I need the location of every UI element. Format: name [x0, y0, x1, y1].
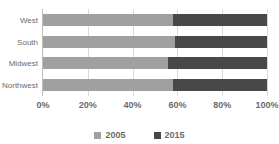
bar-row: West: [43, 14, 267, 26]
x-tick-label: 60%: [168, 99, 186, 111]
bar-row: Midwest: [43, 57, 267, 69]
chart-legend: 20052015: [0, 131, 279, 140]
category-label-south: South: [17, 39, 43, 47]
x-tick-label: 20%: [79, 99, 97, 111]
bar-segment-2015: [175, 36, 267, 48]
bar-segment-2015: [168, 57, 267, 69]
bar-segment-2005: [43, 57, 168, 69]
legend-label-2015: 2015: [165, 131, 185, 140]
chart-title: [0, 0, 279, 2]
bar-segment-2005: [43, 79, 173, 91]
x-tick-label: 80%: [213, 99, 231, 111]
bar-segment-2005: [43, 36, 175, 48]
x-tick-label: 40%: [124, 99, 142, 111]
bar-segment-2015: [173, 14, 267, 26]
bar-row: South: [43, 36, 267, 48]
category-label-west: West: [20, 17, 43, 25]
category-label-northwest: Northwest: [2, 82, 43, 90]
legend-item-2015[interactable]: 2015: [154, 131, 185, 140]
stacked-bar-chart: WestSouthMidwestNorthwest 0%20%40%60%80%…: [0, 0, 279, 144]
legend-item-2005[interactable]: 2005: [94, 131, 125, 140]
legend-swatch-2005: [94, 132, 101, 139]
x-tick-label: 100%: [255, 99, 278, 111]
legend-swatch-2015: [154, 132, 161, 139]
gridline: [267, 9, 268, 96]
x-tick-label: 0%: [36, 99, 49, 111]
plot-area: WestSouthMidwestNorthwest: [43, 9, 267, 96]
bar-segment-2015: [173, 79, 267, 91]
category-label-midwest: Midwest: [9, 60, 43, 68]
legend-label-2005: 2005: [105, 131, 125, 140]
x-axis-tick-labels: 0%20%40%60%80%100%: [43, 99, 267, 113]
bar-row: Northwest: [43, 79, 267, 91]
bar-segment-2005: [43, 14, 173, 26]
